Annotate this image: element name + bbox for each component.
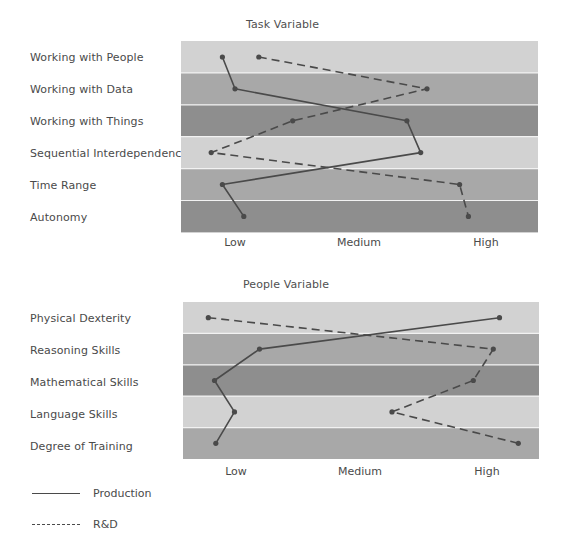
data-point: [213, 441, 218, 446]
data-point: [491, 347, 496, 352]
data-point: [389, 409, 394, 414]
legend-item-production: Production: [32, 486, 152, 500]
tick-label-medium: Medium: [338, 465, 382, 478]
data-point: [206, 315, 211, 320]
data-point: [471, 378, 476, 383]
legend-item-rd: R&D: [32, 517, 118, 531]
legend-label: R&D: [93, 518, 118, 531]
data-point: [497, 315, 502, 320]
data-point: [257, 347, 262, 352]
solid-line-icon: [32, 493, 80, 494]
tick-label-low: Low: [225, 465, 247, 478]
legend-label: Production: [93, 487, 152, 500]
dashed-line-icon: [32, 524, 80, 525]
band-mathematical-skills: [183, 365, 539, 396]
band-degree-of-training: [183, 428, 539, 459]
data-point: [232, 409, 237, 414]
band-physical-dexterity: [183, 302, 539, 333]
data-point: [212, 378, 217, 383]
tick-label-high: High: [474, 465, 499, 478]
data-point: [516, 441, 521, 446]
